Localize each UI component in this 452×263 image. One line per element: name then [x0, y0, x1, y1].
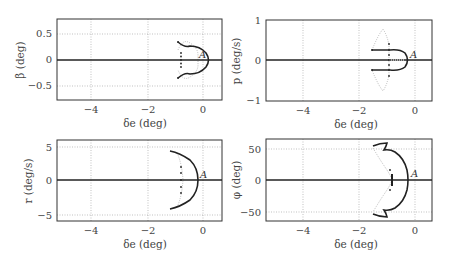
xtick: 0	[412, 225, 418, 236]
y-axis-label: β (deg)	[14, 41, 26, 78]
xtick: −2	[141, 225, 156, 236]
y-axis-label: φ (deg)	[230, 161, 242, 200]
xtick: 0	[200, 225, 206, 236]
xtick: 0	[200, 104, 206, 115]
y-axis-label: r (deg/s)	[22, 158, 34, 203]
ytick: −0.5	[28, 80, 52, 91]
x-axis-label: δe (deg)	[334, 238, 378, 250]
panel-beta: A 0.5 0 −0.5 −4 −2 0 δe (deg) β (deg)	[14, 19, 222, 129]
ytick: 50	[248, 144, 261, 155]
ytick: −5	[37, 210, 52, 221]
ytick: 0.5	[36, 28, 52, 39]
panel-r: A 5 0 −5 −4 −2 0 δe (deg) r (deg/s)	[22, 140, 222, 250]
xtick: −2	[352, 225, 367, 236]
panel-phi: A 50 0 −50 −4 −2 0 δe (deg) φ (deg)	[230, 139, 432, 250]
xtick: −2	[141, 104, 156, 115]
ytick: 5	[46, 142, 52, 153]
xtick: −4	[296, 225, 311, 236]
ytick: −1	[246, 95, 261, 106]
xtick: −4	[84, 104, 99, 115]
y-axis-label: p (deg/s)	[230, 38, 242, 85]
xtick: −4	[296, 105, 311, 116]
x-axis-label: δe (deg)	[123, 117, 167, 129]
x-axis-label: δe (deg)	[334, 118, 378, 130]
xtick: −4	[84, 225, 99, 236]
x-axis-label: δe (deg)	[123, 238, 167, 250]
xtick: −2	[352, 105, 367, 116]
ytick: 0	[46, 54, 52, 65]
ytick: −50	[240, 207, 261, 218]
ytick: 1	[255, 15, 261, 26]
point-label-a: A	[409, 49, 417, 60]
point-label-a: A	[198, 49, 206, 60]
xtick: 0	[412, 105, 418, 116]
panel-p: A 1 0 −1 −4 −2 0 δe (deg) p (deg/s)	[230, 15, 432, 130]
point-label-a: A	[199, 169, 207, 180]
ytick: 0	[255, 55, 261, 66]
ytick: 0	[46, 175, 52, 186]
ytick: 0	[255, 175, 261, 186]
point-label-a: A	[410, 168, 418, 179]
bifurcation-figure: A 0.5 0 −0.5 −4 −2 0 δe (deg) β (deg) A …	[0, 0, 452, 263]
